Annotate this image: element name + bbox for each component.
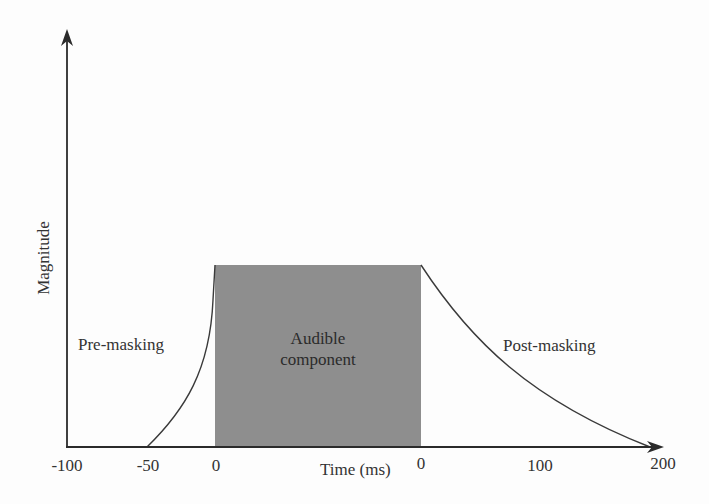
post-masking-label: Post-masking — [503, 337, 596, 354]
audible-label-line-1: Audible — [280, 328, 356, 349]
x-tick-label: -50 — [137, 457, 160, 474]
x-tick-label: 0 — [212, 457, 221, 474]
x-tick-label: -100 — [51, 457, 82, 474]
audible-label-line-2: component — [280, 349, 356, 370]
y-axis-label: Magnitude — [34, 221, 54, 295]
temporal-masking-diagram: Magnitude Pre-masking Audible component … — [0, 0, 709, 504]
audible-component-label: Audible component — [280, 328, 356, 370]
diagram-graphics — [0, 0, 709, 504]
x-tick-label: 100 — [527, 457, 553, 474]
pre-masking-label: Pre-masking — [78, 336, 164, 353]
x-tick-label: 200 — [650, 455, 676, 472]
post-masking-curve — [421, 265, 650, 447]
pre-masking-curve — [147, 265, 215, 447]
x-axis-label: Time (ms) — [320, 461, 391, 478]
x-tick-label: 0 — [417, 455, 426, 472]
